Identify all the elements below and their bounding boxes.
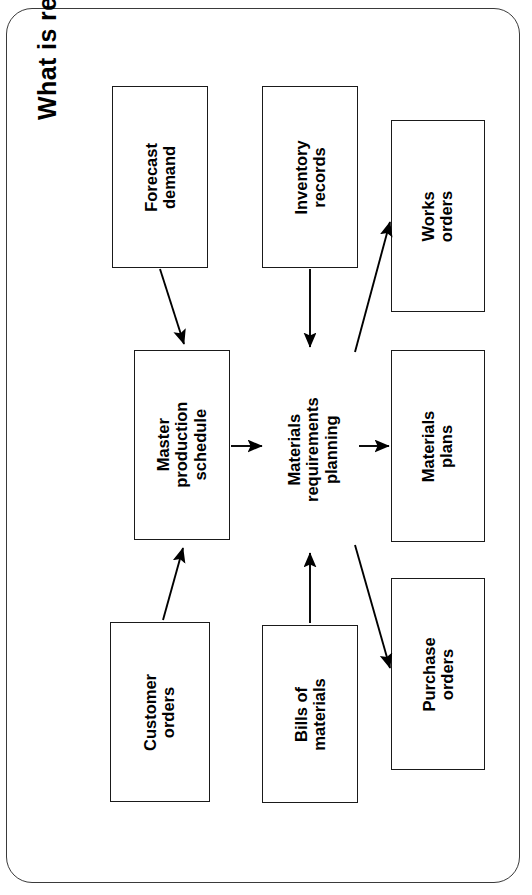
node-bills-of-materials[interactable]: Bills of materials [262,625,358,803]
node-bills-of-materials-label: Bills of materials [292,678,329,750]
node-purchase-orders[interactable]: Purchase orders [391,578,485,770]
node-inventory-records[interactable]: Inventory records [262,86,358,268]
node-materials-plans[interactable]: Materials plans [391,350,485,542]
node-materials-plans-label: Materials plans [420,410,457,482]
slide-canvas: What is required to run MRP1? Forecast d… [0,0,532,895]
node-purchase-orders-label: Purchase orders [420,637,457,711]
node-forecast-demand[interactable]: Forecast demand [112,86,208,268]
node-customer-orders-label: Customer orders [142,673,179,750]
node-inventory-records-label: Inventory records [292,140,329,214]
node-materials-requirements-planning[interactable]: Materials requirements planning [266,352,358,548]
node-works-orders-label: Works orders [420,190,457,241]
node-forecast-demand-label: Forecast demand [142,143,179,212]
node-master-production-schedule[interactable]: Master production schedule [134,350,230,540]
node-master-production-schedule-label: Master production schedule [154,402,209,488]
node-materials-requirements-planning-label: Materials requirements planning [284,398,339,503]
node-customer-orders[interactable]: Customer orders [110,622,210,802]
page-title: What is required to run MRP1? [24,0,70,120]
node-works-orders[interactable]: Works orders [391,120,485,312]
